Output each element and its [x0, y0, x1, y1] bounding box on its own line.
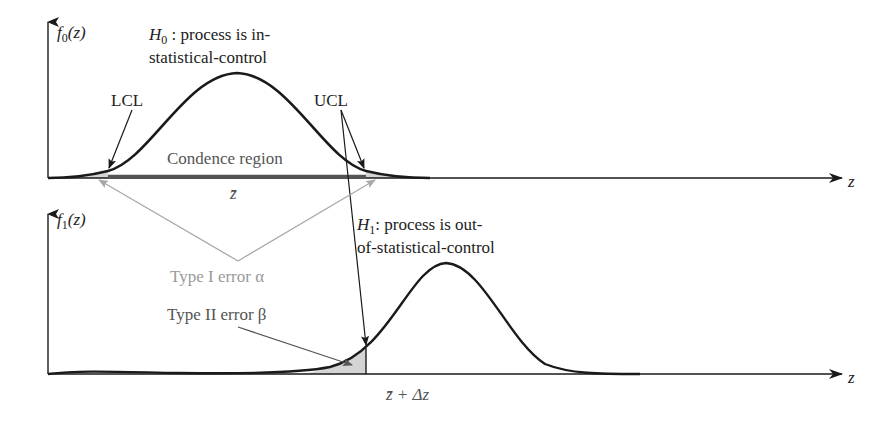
h0-label-line1: H0 : process is in-: [148, 25, 271, 47]
shift-label: z̄ + Δz: [385, 385, 430, 404]
type1-pointer-left: [99, 180, 238, 261]
bottom-panel: f1(z) z H1: process is out- of-statistic…: [48, 210, 855, 404]
control-chart-diagram: f0(z) z H0 : process is in- statistical-…: [0, 0, 890, 423]
confidence-region-label: Condence region: [167, 149, 283, 168]
type1-error-annotation: Type I error α: [99, 180, 375, 286]
type2-error-label: Type II error β: [167, 305, 267, 324]
type1-pointer-right: [238, 180, 375, 261]
mean-label: z̄: [229, 184, 237, 203]
h1-distribution-curve: [48, 263, 640, 374]
lcl-label: LCL: [111, 91, 143, 110]
h1-label-line2: of-statistical-control: [357, 238, 495, 257]
bottom-y-axis-label: f1(z): [57, 210, 86, 232]
type2-pointer: [238, 327, 352, 365]
h0-label-line2: statistical-control: [149, 48, 267, 67]
top-panel: f0(z) z H0 : process is in- statistical-…: [48, 22, 855, 345]
top-y-axis-label: f0(z): [57, 23, 86, 45]
h1-label-line1: H1: process is out-: [356, 215, 483, 237]
type1-error-label: Type I error α: [170, 267, 264, 286]
ucl-label: UCL: [314, 91, 348, 110]
top-x-axis-label: z: [847, 172, 855, 191]
bottom-x-axis-label: z: [847, 368, 855, 387]
